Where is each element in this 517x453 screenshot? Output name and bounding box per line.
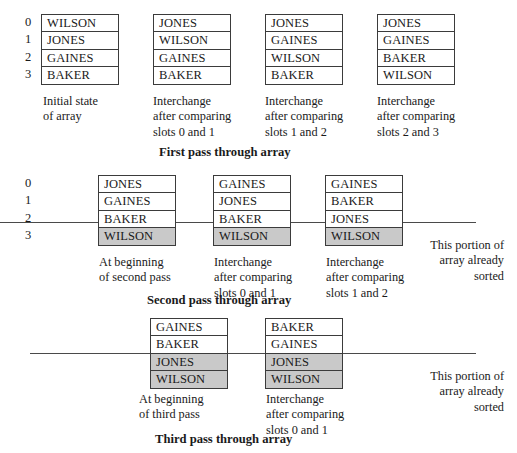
index-label: 2 — [21, 49, 35, 66]
snapshot-caption: Initial state of array — [43, 94, 148, 125]
index-label: 0 — [21, 14, 35, 31]
array-cell-sorted: JONES — [151, 354, 227, 371]
pass1-index-column: 0 1 2 3 — [21, 14, 35, 83]
index-label: 1 — [21, 192, 35, 209]
pass-title-third: Third pass through array — [155, 432, 292, 447]
array-cell-sorted: WILSON — [151, 371, 227, 388]
array-snapshot: JONES WILSON GAINES BAKER — [153, 14, 231, 85]
array-cell: BAKER — [214, 211, 290, 228]
array-snapshot: GAINES BAKER JONES WILSON — [325, 175, 403, 246]
array-cell: JONES — [42, 32, 118, 49]
array-snapshot: WILSON JONES GAINES BAKER — [41, 14, 119, 85]
array-snapshot: JONES GAINES BAKER WILSON — [377, 14, 455, 85]
array-cell: JONES — [378, 15, 454, 32]
sorted-portion-note: This portion of array already sorted — [408, 238, 504, 284]
array-cell-sorted: WILSON — [99, 228, 175, 245]
array-cell: WILSON — [378, 67, 454, 84]
array-cell-sorted: WILSON — [266, 371, 342, 388]
pass-title-second: Second pass through array — [147, 293, 291, 308]
array-cell: BAKER — [378, 50, 454, 67]
snapshot-caption: Interchange after comparing slots 0 and … — [153, 94, 263, 140]
snapshot-caption: Interchange after comparing slots 2 and … — [377, 94, 489, 140]
index-label: 1 — [21, 31, 35, 48]
array-cell: JONES — [266, 15, 342, 32]
snapshot-caption: Interchange after comparing slots 1 and … — [265, 94, 375, 140]
array-cell: GAINES — [151, 319, 227, 336]
pass-title-first: First pass through array — [159, 145, 291, 160]
array-cell: BAKER — [42, 67, 118, 84]
array-cell: GAINES — [214, 176, 290, 193]
array-cell: BAKER — [151, 336, 227, 353]
array-cell: WILSON — [42, 15, 118, 32]
sorted-portion-note: This portion of array already sorted — [408, 369, 504, 415]
array-snapshot: BAKER GAINES JONES WILSON — [265, 318, 343, 389]
index-label: 3 — [21, 66, 35, 83]
snapshot-caption: At beginning of second pass — [99, 255, 211, 286]
array-cell-sorted: WILSON — [326, 228, 402, 245]
array-snapshot: JONES GAINES BAKER WILSON — [98, 175, 176, 246]
array-cell: BAKER — [99, 211, 175, 228]
index-label: 2 — [21, 210, 35, 227]
array-cell: WILSON — [266, 50, 342, 67]
array-snapshot: GAINES BAKER JONES WILSON — [150, 318, 228, 389]
array-snapshot: JONES GAINES WILSON BAKER — [265, 14, 343, 85]
bubble-sort-figure: 0 1 2 3 WILSON JONES GAINES BAKER Initia… — [0, 0, 517, 453]
array-cell: GAINES — [266, 336, 342, 353]
array-cell: JONES — [99, 176, 175, 193]
array-cell: BAKER — [266, 319, 342, 336]
array-cell: BAKER — [266, 67, 342, 84]
array-cell: JONES — [154, 15, 230, 32]
array-cell: GAINES — [266, 32, 342, 49]
snapshot-caption: At beginning of third pass — [139, 392, 251, 423]
array-cell: GAINES — [326, 176, 402, 193]
array-cell: JONES — [214, 193, 290, 210]
array-cell: GAINES — [42, 50, 118, 67]
array-cell-sorted: JONES — [266, 354, 342, 371]
index-label: 3 — [21, 227, 35, 244]
array-cell: GAINES — [378, 32, 454, 49]
array-cell: BAKER — [154, 67, 230, 84]
pass2-index-column: 0 1 2 3 — [21, 175, 35, 244]
array-cell: GAINES — [99, 193, 175, 210]
array-cell: BAKER — [326, 193, 402, 210]
array-cell: GAINES — [154, 50, 230, 67]
array-cell: WILSON — [154, 32, 230, 49]
index-label: 0 — [21, 175, 35, 192]
array-snapshot: GAINES JONES BAKER WILSON — [213, 175, 291, 246]
array-cell: JONES — [326, 211, 402, 228]
array-cell-sorted: WILSON — [214, 228, 290, 245]
sorted-divider-line — [30, 353, 476, 354]
